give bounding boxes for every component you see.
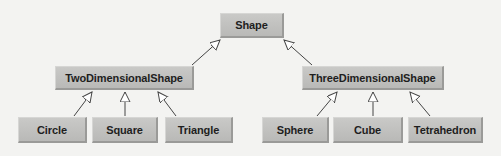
class-box-cube: Cube <box>333 117 403 143</box>
class-label: Triangle <box>178 124 219 136</box>
class-box-square: Square <box>92 117 158 143</box>
class-box-sphere: Sphere <box>262 117 329 143</box>
arrow-tetrahedron-to-three-dim <box>410 92 430 116</box>
class-label: Tetrahedron <box>414 124 476 136</box>
class-box-circle: Circle <box>18 117 87 143</box>
class-box-tetrahedron: Tetrahedron <box>408 117 483 143</box>
class-box-shape: Shape <box>220 13 284 38</box>
class-label: Circle <box>37 124 67 136</box>
class-box-two-dimensional-shape: TwoDimensionalShape <box>55 66 194 90</box>
arrow-two-dim-to-shape <box>192 40 220 65</box>
class-box-triangle: Triangle <box>165 117 233 143</box>
class-label: Sphere <box>277 124 314 136</box>
arrow-triangle-to-two-dim <box>158 92 176 116</box>
class-label: Square <box>106 124 143 136</box>
class-label: Shape <box>235 19 268 31</box>
class-label: TwoDimensionalShape <box>65 72 183 84</box>
class-label: Cube <box>354 124 381 136</box>
arrow-three-dim-to-shape <box>284 40 312 65</box>
class-label: ThreeDimensionalShape <box>309 72 435 84</box>
arrow-sphere-to-three-dim <box>317 92 337 116</box>
class-box-three-dimensional-shape: ThreeDimensionalShape <box>302 66 444 90</box>
arrow-circle-to-two-dim <box>74 92 92 116</box>
